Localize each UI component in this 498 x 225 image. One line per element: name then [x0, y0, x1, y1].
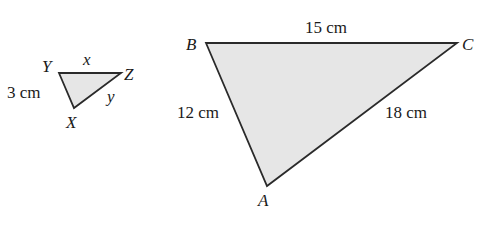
side-label-bc: 15 cm: [305, 18, 347, 37]
vertex-label-y: Y: [42, 57, 53, 76]
vertex-label-c: C: [462, 35, 474, 54]
vertex-label-z: Z: [124, 65, 134, 84]
side-label-yz: x: [82, 50, 91, 69]
vertex-label-a: A: [257, 191, 269, 210]
vertex-label-x: X: [65, 113, 77, 132]
similar-triangles-diagram: Y Z X x y 3 cm B C A 15 cm 12 cm 18 cm: [0, 0, 498, 225]
side-label-zx: y: [105, 87, 115, 106]
side-label-ca: 18 cm: [385, 103, 427, 122]
side-label-yx: 3 cm: [7, 83, 41, 102]
vertex-label-b: B: [186, 35, 197, 54]
side-label-ba: 12 cm: [177, 103, 219, 122]
